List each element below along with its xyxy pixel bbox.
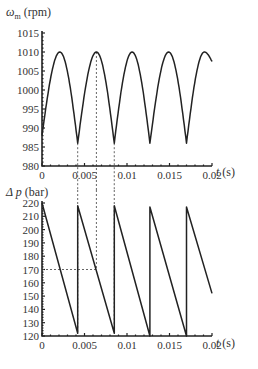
x-tick-label: 0.005 — [72, 339, 97, 351]
y-tick-label: 220 — [23, 197, 40, 209]
x-tick-label: 0.015 — [157, 169, 182, 181]
y-tick-label: 150 — [23, 290, 40, 302]
speed-plot: ωm (rpm) 9809859909951000100510101015 00… — [6, 5, 235, 190]
y-tick-label: 985 — [23, 141, 40, 153]
x-tick-label: 0.015 — [157, 339, 182, 351]
x-tick-label: 0.01 — [117, 339, 136, 351]
y-tick-label: 1015 — [17, 27, 40, 39]
y-tick-label: 995 — [23, 103, 40, 115]
speed-axes — [42, 31, 212, 166]
y-tick-label: 1000 — [17, 84, 40, 96]
x-tick-label: 0.005 — [72, 169, 97, 181]
y-tick-label: 180 — [23, 250, 40, 262]
y-tick-label: 190 — [23, 237, 40, 249]
y-tick-label: 980 — [23, 160, 40, 172]
x-tick-label: 0 — [39, 339, 45, 351]
y-tick-label: 200 — [23, 224, 40, 236]
y-tick-label: 140 — [23, 303, 40, 315]
y-tick-label: 130 — [23, 317, 40, 329]
y-tick-label: 1010 — [17, 46, 40, 58]
y-tick-label: 990 — [23, 122, 40, 134]
y-tick-label: 210 — [23, 210, 40, 222]
speed-axis-title: ωm (rpm) — [6, 5, 51, 21]
x-tick-label: 0 — [39, 169, 45, 181]
speed-curve — [42, 52, 212, 143]
pressure-x-axis-title: t (s) — [216, 336, 235, 350]
y-tick-label: 160 — [23, 277, 40, 289]
speed-y-ticks: 9809859909951000100510101015 — [17, 27, 45, 172]
pressure-plot: Δ p (bar) 120130140150160170180190200210… — [5, 185, 235, 351]
chart-figure: ωm (rpm) 9809859909951000100510101015 00… — [0, 0, 258, 369]
y-tick-label: 1005 — [17, 65, 40, 77]
y-tick-label: 120 — [23, 330, 40, 342]
y-tick-label: 170 — [23, 264, 40, 276]
speed-x-axis-title: t (s) — [216, 165, 235, 179]
x-tick-label: 0.01 — [117, 169, 136, 181]
